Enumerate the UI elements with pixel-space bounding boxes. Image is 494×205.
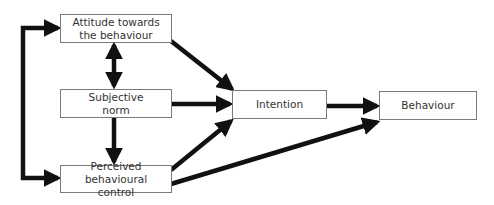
node-subjective-norm: Subjective norm [60, 89, 172, 118]
node-intention-label: Intention [256, 98, 303, 111]
arrow-pbc-behaviour [171, 122, 377, 184]
arrow-pbc-intention [171, 121, 231, 170]
node-subjective-norm-label: Subjective norm [86, 91, 146, 117]
node-attitude-label: Attitude towards the behaviour [71, 16, 161, 42]
node-pbc-label: Perceived behavioural control [66, 160, 166, 199]
node-behaviour-label: Behaviour [401, 99, 454, 112]
arrow-pbc-attitude-bracket [23, 28, 58, 178]
node-perceived-behavioural-control: Perceived behavioural control [60, 165, 172, 193]
arrow-attitude-intention [171, 41, 232, 89]
node-intention: Intention [232, 90, 327, 119]
node-behaviour: Behaviour [379, 91, 477, 120]
node-attitude: Attitude towards the behaviour [60, 14, 172, 43]
